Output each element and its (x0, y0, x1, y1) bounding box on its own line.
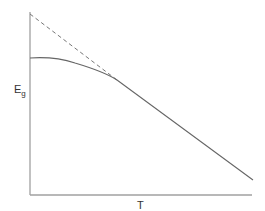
y-axis-label: Eg (14, 84, 26, 95)
extrapolation-dashed-line (30, 14, 117, 80)
band-gap-diagram (0, 0, 265, 211)
band-gap-curve (30, 58, 253, 180)
x-axis-label: T (137, 200, 144, 211)
y-axis-label-subscript: g (21, 89, 25, 98)
